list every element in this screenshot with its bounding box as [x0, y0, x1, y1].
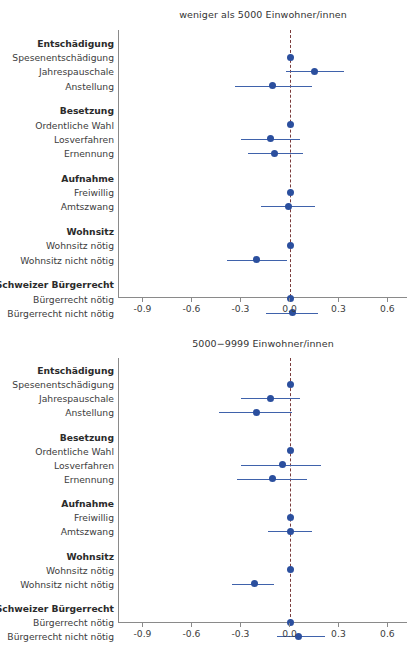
category-label: Losverfahren — [54, 133, 114, 146]
group-label: Besetzung — [60, 431, 114, 444]
x-axis-tick-label: -0.3 — [231, 628, 249, 639]
estimate-row: Ernennung — [119, 473, 407, 486]
estimate-point — [253, 409, 260, 416]
category-label: Losverfahren — [54, 459, 114, 472]
x-axis-top: -0.9-0.6-0.30.00.30.6 — [118, 298, 407, 320]
plot-area-top: EntschädigungSpesenentschädigungJahrespa… — [118, 30, 407, 298]
group-label: Entschädigung — [37, 37, 114, 50]
estimate-point — [269, 82, 276, 89]
category-label: Freiwillig — [74, 511, 114, 524]
x-axis-tick — [289, 623, 290, 627]
group-heading-row: Wohnsitz — [119, 550, 407, 563]
x-axis-tick — [142, 623, 143, 627]
x-axis-tick — [142, 298, 143, 302]
estimate-point — [287, 189, 294, 196]
x-axis-tick-label: 0.0 — [282, 303, 297, 314]
estimate-point — [251, 580, 258, 587]
estimate-point — [287, 528, 294, 535]
x-axis-bottom: -0.9-0.6-0.30.00.30.6 — [118, 623, 407, 645]
category-label: Ernennung — [64, 473, 114, 486]
category-label: Wohnsitz nötig — [46, 564, 114, 577]
x-axis-tick — [191, 298, 192, 302]
category-label: Ordentliche Wahl — [35, 445, 114, 458]
estimate-point — [267, 395, 274, 402]
group-label: Schweizer Bürgerrecht — [0, 278, 114, 291]
group-label: Wohnsitz — [66, 550, 114, 563]
category-label: Ernennung — [64, 147, 114, 160]
category-label: Wohnsitz nicht nötig — [20, 254, 114, 267]
category-label: Jahrespauschale — [39, 65, 114, 78]
x-axis-tick — [191, 623, 192, 627]
x-axis-tick — [338, 298, 339, 302]
estimate-point — [267, 135, 274, 142]
estimate-point — [311, 68, 318, 75]
estimate-row: Jahrespauschale — [119, 65, 407, 78]
estimate-row: Losverfahren — [119, 133, 407, 146]
category-label: Amtszwang — [61, 200, 114, 213]
group-label: Aufnahme — [61, 172, 114, 185]
category-label: Jahrespauschale — [39, 392, 114, 405]
x-axis-tick — [289, 298, 290, 302]
panel-5000-9999: 5000−9999 Einwohner/innen EntschädigungS… — [0, 330, 411, 640]
category-label: Wohnsitz nötig — [46, 239, 114, 252]
category-label: Ordentliche Wahl — [35, 119, 114, 132]
estimate-point — [287, 447, 294, 454]
estimate-row: Ernennung — [119, 147, 407, 160]
category-label: Bürgerrecht nötig — [33, 616, 114, 629]
group-label: Aufnahme — [61, 497, 114, 510]
estimate-row: Losverfahren — [119, 459, 407, 472]
estimate-point — [279, 461, 286, 468]
estimate-point — [287, 514, 294, 521]
category-label: Spesenentschädigung — [12, 51, 114, 64]
estimate-row: Spesenentschädigung — [119, 378, 407, 391]
x-axis-tick-label: -0.6 — [183, 628, 201, 639]
estimate-row: Wohnsitz nicht nötig — [119, 254, 407, 267]
estimate-point — [287, 54, 294, 61]
category-label: Wohnsitz nicht nötig — [20, 578, 114, 591]
x-axis-tick-label: -0.9 — [134, 628, 152, 639]
estimate-row: Wohnsitz nicht nötig — [119, 578, 407, 591]
x-axis-tick-label: 0.0 — [282, 628, 297, 639]
group-heading-row: Aufnahme — [119, 172, 407, 185]
x-axis-tick-label: 0.3 — [331, 628, 346, 639]
x-axis-tick — [338, 623, 339, 627]
category-label: Bürgerrecht nicht nötig — [7, 307, 114, 320]
category-label: Bürgerrecht nötig — [33, 293, 114, 306]
group-label: Schweizer Bürgerrecht — [0, 602, 114, 615]
x-axis-tick-label: -0.9 — [134, 303, 152, 314]
estimate-row: Anstellung — [119, 406, 407, 419]
estimate-row: Amtszwang — [119, 200, 407, 213]
estimate-row: Jahrespauschale — [119, 392, 407, 405]
panel-title-bottom: 5000−9999 Einwohner/innen — [118, 338, 408, 349]
group-label: Wohnsitz — [66, 225, 114, 238]
x-axis-tick — [240, 298, 241, 302]
estimate-point — [287, 381, 294, 388]
estimate-point — [269, 475, 276, 482]
group-heading-row: Aufnahme — [119, 497, 407, 510]
x-axis-tick-label: 0.6 — [380, 628, 395, 639]
category-label: Amtszwang — [61, 525, 114, 538]
plot-area-bottom: EntschädigungSpesenentschädigungJahrespa… — [118, 358, 407, 623]
category-label: Bürgerrecht nicht nötig — [7, 630, 114, 643]
x-axis-tick-label: 0.3 — [331, 303, 346, 314]
estimate-point — [271, 150, 278, 157]
panel-weniger-als-5000: weniger als 5000 Einwohner/innen Entschä… — [0, 0, 411, 330]
x-axis-tick-label: -0.3 — [231, 303, 249, 314]
category-label: Spesenentschädigung — [12, 378, 114, 391]
x-axis-tick-label: 0.6 — [380, 303, 395, 314]
estimate-point — [287, 566, 294, 573]
estimate-point — [253, 256, 260, 263]
group-label: Entschädigung — [37, 364, 114, 377]
estimate-row: Ordentliche Wahl — [119, 119, 407, 132]
x-axis-tick — [387, 623, 388, 627]
group-heading-row: Entschädigung — [119, 37, 407, 50]
group-heading-row: Entschädigung — [119, 364, 407, 377]
x-axis-tick-label: -0.6 — [183, 303, 201, 314]
group-heading-row: Schweizer Bürgerrecht — [119, 278, 407, 291]
group-heading-row: Besetzung — [119, 104, 407, 117]
estimate-row: Spesenentschädigung — [119, 51, 407, 64]
estimate-row: Wohnsitz nötig — [119, 239, 407, 252]
group-label: Besetzung — [60, 104, 114, 117]
category-label: Freiwillig — [74, 186, 114, 199]
